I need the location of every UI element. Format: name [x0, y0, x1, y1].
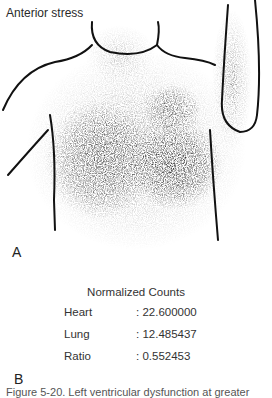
- table-title: Normalized Counts: [0, 286, 272, 298]
- row-key: Heart: [64, 306, 134, 318]
- scintigram-image: Anterior stress A: [0, 0, 272, 262]
- row-key: Lung: [64, 328, 134, 340]
- body-outline-scan: [0, 0, 272, 262]
- panel-label-a: A: [12, 244, 21, 260]
- row-key: Ratio: [64, 350, 134, 362]
- panel-label-b: B: [14, 371, 23, 387]
- row-value: : 0.552453: [136, 350, 190, 362]
- row-value: : 22.600000: [136, 306, 197, 318]
- figure-caption: Figure 5-20. Left ventricular dysfunctio…: [6, 386, 272, 398]
- image-title: Anterior stress: [6, 6, 83, 20]
- normalized-counts-table: Normalized Counts Heart : 22.600000 Lung…: [0, 270, 272, 374]
- row-value: : 12.485437: [136, 328, 197, 340]
